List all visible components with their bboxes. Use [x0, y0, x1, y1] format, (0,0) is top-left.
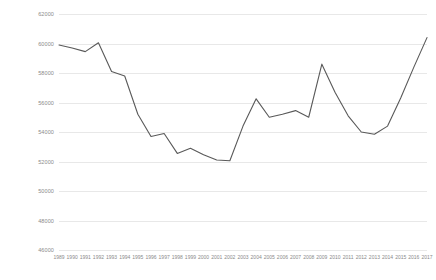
x-axis-tick-label: 2002 [224, 254, 235, 260]
x-axis-tick-label: 1993 [106, 254, 117, 260]
gridline [59, 250, 427, 251]
x-axis-tick-label: 2000 [198, 254, 209, 260]
x-axis-tick-label: 1990 [67, 254, 78, 260]
x-axis-tick-label: 2003 [237, 254, 248, 260]
y-axis-tick-label: 46000 [38, 247, 54, 253]
x-axis-tick-label: 2006 [277, 254, 288, 260]
y-axis-tick-label: 48000 [38, 218, 54, 224]
series-line [59, 14, 427, 250]
x-axis-tick-label: 1997 [159, 254, 170, 260]
y-axis-tick-label: 52000 [38, 159, 54, 165]
x-axis-tick-label: 2014 [382, 254, 393, 260]
x-axis-tick-label: 2016 [408, 254, 419, 260]
x-axis-tick-label: 2001 [211, 254, 222, 260]
line-chart: 4600048000500005200054000560005800060000… [0, 0, 436, 280]
x-axis-tick-labels: 1989199019911992199319941995199619971998… [59, 254, 427, 268]
y-axis-tick-label: 54000 [38, 129, 54, 135]
x-axis-tick-label: 2004 [251, 254, 262, 260]
series-1-polyline [59, 38, 427, 161]
x-axis-tick-label: 2005 [264, 254, 275, 260]
x-axis-tick-label: 2017 [421, 254, 432, 260]
x-axis-tick-label: 1991 [80, 254, 91, 260]
x-axis-tick-label: 2012 [356, 254, 367, 260]
x-axis-tick-label: 1999 [185, 254, 196, 260]
x-axis-tick-label: 1989 [53, 254, 64, 260]
y-axis-tick-label: 56000 [38, 100, 54, 106]
y-axis-tick-label: 58000 [38, 70, 54, 76]
x-axis-tick-label: 2007 [290, 254, 301, 260]
y-axis-tick-label: 50000 [38, 188, 54, 194]
x-axis-tick-label: 2011 [343, 254, 354, 260]
x-axis-tick-label: 1994 [119, 254, 130, 260]
plot-area [59, 14, 427, 250]
x-axis-tick-label: 2010 [329, 254, 340, 260]
y-axis-tick-label: 62000 [38, 11, 54, 17]
x-axis-tick-label: 2015 [395, 254, 406, 260]
y-axis-tick-label: 60000 [38, 41, 54, 47]
x-axis-tick-label: 1996 [145, 254, 156, 260]
x-axis-tick-label: 1992 [93, 254, 104, 260]
x-axis-tick-label: 1998 [172, 254, 183, 260]
x-axis-tick-label: 1995 [132, 254, 143, 260]
x-axis-tick-label: 2009 [316, 254, 327, 260]
x-axis-tick-label: 2008 [303, 254, 314, 260]
x-axis-tick-label: 2013 [369, 254, 380, 260]
